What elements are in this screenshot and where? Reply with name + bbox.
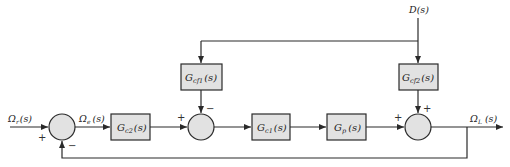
sum3-plus-sign-top: + <box>423 103 431 114</box>
sum2-plus-sign: + <box>177 112 185 123</box>
block-gcf1: Gcf1(s) <box>181 64 222 90</box>
reference-signal-label: Ωr(s) <box>7 113 32 125</box>
block-gcf2: Gcf2(s) <box>399 64 438 90</box>
sum3-plus-sign-left: + <box>394 112 402 123</box>
summing-junction-1 <box>49 114 75 140</box>
summing-junction-3 <box>405 114 431 140</box>
sum2-minus-sign: − <box>206 103 214 114</box>
output-signal-label: ΩL(s) <box>469 113 497 125</box>
disturbance-signal-label: D(s) <box>408 4 429 15</box>
error-signal-label: Ωe(s) <box>78 113 105 125</box>
block-gp: Gp(s) <box>327 114 366 140</box>
block-gc1: Gc1(s) <box>252 114 290 140</box>
sum1-minus-sign: − <box>68 140 76 151</box>
block-gc2: Gc2(s) <box>111 114 150 140</box>
block-diagram: + − + − + + Gc2(s) Gcf1(s) Gc1(s) Gp(s) … <box>0 0 510 167</box>
sum1-plus-sign: + <box>38 132 46 143</box>
summing-junction-2 <box>188 114 214 140</box>
